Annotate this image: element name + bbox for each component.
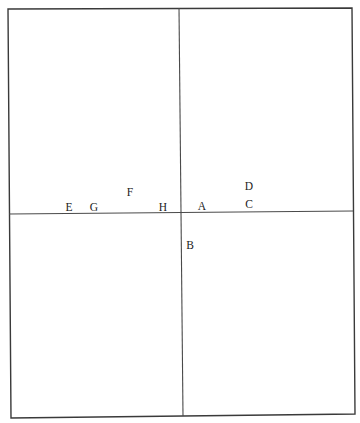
label-a: A <box>198 200 207 212</box>
label-h: H <box>159 201 167 213</box>
label-e: E <box>65 201 72 213</box>
point-labels: A B C D E F G H <box>65 180 253 251</box>
label-g: G <box>90 201 98 213</box>
label-d: D <box>245 180 253 192</box>
label-f: F <box>127 186 133 198</box>
quadrant-diagram: A B C D E F G H <box>0 0 360 423</box>
label-b: B <box>186 239 194 251</box>
label-c: C <box>245 198 253 210</box>
